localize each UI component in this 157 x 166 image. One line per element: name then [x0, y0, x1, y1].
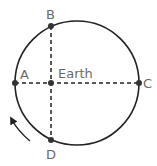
point-c — [136, 80, 142, 86]
direction-arrow-icon — [12, 120, 30, 141]
earth-point — [48, 80, 54, 86]
label-d: D — [46, 147, 56, 162]
earth-label: Earth — [58, 66, 93, 81]
point-b — [48, 23, 54, 29]
label-c: C — [143, 76, 152, 91]
orbit-diagram: A B C D Earth — [0, 0, 157, 166]
point-a — [12, 80, 18, 86]
label-b: B — [46, 7, 55, 22]
label-a: A — [20, 67, 29, 82]
point-d — [48, 137, 54, 143]
